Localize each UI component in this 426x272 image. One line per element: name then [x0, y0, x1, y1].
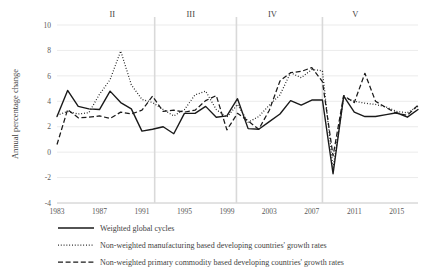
y-axis-title-group: Annual percentage change [10, 69, 20, 159]
phase-label-IV: IV [268, 9, 278, 19]
x-axis-tick-labels: 198319871991199519992003200720112015 [50, 207, 405, 216]
y-axis-title: Annual percentage change [10, 69, 20, 159]
y-tick-label: -2 [45, 173, 51, 182]
series-line-1 [57, 90, 418, 173]
x-tick-label: 1983 [50, 207, 65, 216]
phase-label-II: II [109, 9, 115, 19]
x-tick-label: 2003 [262, 207, 277, 216]
chart-legend: Weighted global cyclesNon-weighted manuf… [58, 224, 344, 267]
y-tick-label: 6 [47, 72, 51, 81]
x-tick-label: 1999 [219, 207, 234, 216]
line-chart: -4-20246810 1983198719911995199920032007… [0, 0, 426, 272]
series-line-2 [57, 51, 418, 168]
x-tick-label: 1987 [92, 207, 107, 216]
series-line-3 [57, 68, 418, 156]
x-tick-label: 2011 [347, 207, 362, 216]
x-tick-label: 1991 [134, 207, 149, 216]
x-tick-label: 2015 [389, 207, 404, 216]
phase-label-III: III [187, 9, 196, 19]
phase-label-V: V [352, 9, 359, 19]
legend-label-1: Weighted global cycles [100, 224, 174, 233]
y-tick-label: 0 [47, 148, 51, 157]
y-tick-label: 8 [47, 46, 51, 55]
x-tick-label: 2007 [304, 207, 319, 216]
y-tick-label: 4 [47, 97, 51, 106]
x-tick-label: 1995 [177, 207, 192, 216]
legend-label-2: Non-weighted manufacturing based develop… [100, 241, 327, 250]
y-axis-tick-labels: -4-20246810 [44, 21, 52, 208]
y-tick-label: 10 [44, 21, 52, 30]
data-series-group [57, 51, 418, 174]
legend-label-3: Non-weighted primary commodity based dev… [100, 258, 344, 267]
phase-divider-group [155, 17, 323, 203]
y-tick-label: 2 [47, 122, 51, 131]
chart-figure: -4-20246810 1983198719911995199920032007… [0, 0, 426, 272]
